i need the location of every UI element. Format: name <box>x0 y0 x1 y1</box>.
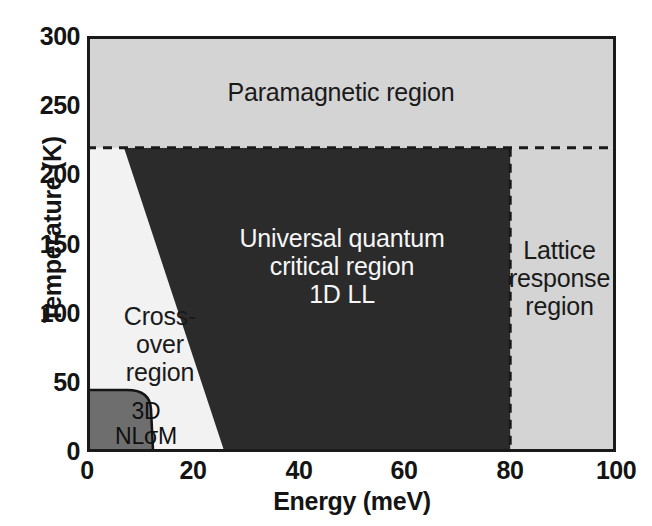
y-axis-tick-labels: 300 250 200 150 100 50 0 <box>18 0 80 526</box>
x-tick-100: 100 <box>576 456 652 485</box>
x-axis-label: Energy (meV) <box>87 487 617 516</box>
x-tick-80: 80 <box>470 456 550 485</box>
x-tick-0: 0 <box>47 456 127 485</box>
region-label-3d-nlsigmam: 3D NLσM <box>93 399 199 449</box>
region-label-paramagnetic: Paramagnetic region <box>191 78 491 106</box>
x-tick-40: 40 <box>259 456 339 485</box>
x-tick-20: 20 <box>153 456 233 485</box>
y-tick-150: 150 <box>18 230 80 259</box>
region-label-lattice-response: Lattice response region <box>503 236 616 320</box>
y-tick-300: 300 <box>18 22 80 51</box>
y-tick-50: 50 <box>18 368 80 397</box>
y-tick-200: 200 <box>18 160 80 189</box>
plot-area: Paramagnetic region Universal quantum cr… <box>87 36 616 452</box>
region-label-universal-quantum-critical: Universal quantum critical region 1D LL <box>197 224 487 308</box>
y-tick-250: 250 <box>18 91 80 120</box>
y-tick-100: 100 <box>18 299 80 328</box>
x-tick-60: 60 <box>364 456 444 485</box>
phase-diagram-figure: Temperature (K) 300 250 200 150 100 50 0 <box>0 0 652 526</box>
region-label-crossover: Cross- over region <box>101 302 219 386</box>
